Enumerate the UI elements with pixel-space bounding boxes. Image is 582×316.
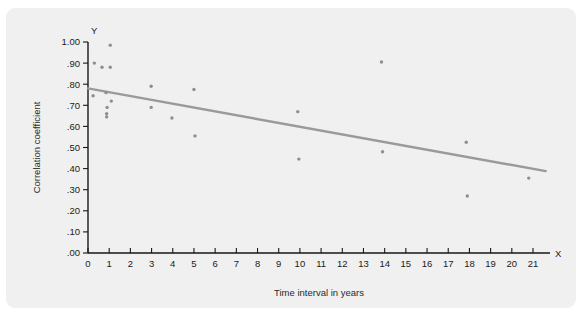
data-point bbox=[91, 94, 94, 97]
x-tick-label: 16 bbox=[422, 258, 433, 269]
data-point bbox=[527, 176, 530, 179]
x-tick-label: 17 bbox=[443, 258, 454, 269]
x-tick-label: 11 bbox=[316, 258, 326, 269]
x-tick-label: 5 bbox=[191, 258, 196, 269]
data-point bbox=[104, 91, 107, 94]
y-tick-label: 1.00 bbox=[62, 36, 81, 47]
data-point bbox=[170, 116, 173, 119]
data-point bbox=[105, 106, 108, 109]
data-point bbox=[192, 88, 195, 91]
y-tick-label: .20 bbox=[67, 205, 80, 216]
data-point bbox=[297, 157, 300, 160]
data-point bbox=[149, 106, 152, 109]
x-tick-label: 6 bbox=[212, 258, 217, 269]
trend-line bbox=[88, 88, 546, 171]
x-tick-label: 14 bbox=[379, 258, 390, 269]
x-axis-ticks: 0123456789101112131415161718192021 bbox=[85, 248, 538, 269]
x-tick-label: 3 bbox=[149, 258, 154, 269]
x-tick-label: 20 bbox=[507, 258, 518, 269]
x-tick-label: 18 bbox=[464, 258, 475, 269]
x-axis-symbol: X bbox=[555, 248, 562, 259]
y-tick-label: .40 bbox=[67, 163, 80, 174]
y-tick-label: .70 bbox=[67, 100, 80, 111]
data-point bbox=[105, 115, 108, 118]
x-tick-label: 4 bbox=[170, 258, 175, 269]
y-tick-label: .50 bbox=[67, 142, 80, 153]
axes bbox=[88, 42, 550, 253]
data-point bbox=[466, 194, 469, 197]
data-point bbox=[109, 66, 112, 69]
y-axis-symbol: Y bbox=[91, 25, 98, 36]
x-tick-label: 1 bbox=[107, 258, 112, 269]
x-axis-title: Time interval in years bbox=[274, 287, 364, 298]
data-point bbox=[105, 112, 108, 115]
x-tick-label: 13 bbox=[358, 258, 369, 269]
scatter-plot-figure: .00.10.20.30.40.50.60.70.80.901.00 01234… bbox=[0, 0, 582, 316]
x-tick-label: 12 bbox=[337, 258, 348, 269]
x-tick-label: 9 bbox=[276, 258, 281, 269]
data-points bbox=[91, 43, 530, 197]
data-point bbox=[110, 99, 113, 102]
x-tick-label: 10 bbox=[295, 258, 306, 269]
y-tick-label: .90 bbox=[67, 58, 80, 69]
data-point bbox=[380, 60, 383, 63]
chart-canvas: .00.10.20.30.40.50.60.70.80.901.00 01234… bbox=[0, 0, 582, 316]
data-point bbox=[465, 141, 468, 144]
data-point bbox=[93, 61, 96, 64]
y-tick-label: .00 bbox=[67, 247, 80, 258]
x-tick-label: 8 bbox=[255, 258, 260, 269]
x-tick-label: 21 bbox=[528, 258, 539, 269]
y-tick-label: .10 bbox=[67, 226, 80, 237]
x-tick-label: 19 bbox=[485, 258, 496, 269]
x-tick-label: 7 bbox=[234, 258, 239, 269]
regression-trend-line bbox=[88, 88, 546, 171]
data-point bbox=[381, 150, 384, 153]
y-axis-ticks: .00.10.20.30.40.50.60.70.80.901.00 bbox=[62, 36, 89, 258]
x-tick-label: 0 bbox=[85, 258, 90, 269]
data-point bbox=[109, 43, 112, 46]
x-tick-label: 15 bbox=[401, 258, 412, 269]
y-axis-title: Correlation coefficient bbox=[31, 101, 42, 193]
data-point bbox=[296, 110, 299, 113]
data-point bbox=[193, 134, 196, 137]
y-tick-label: .60 bbox=[67, 121, 80, 132]
y-tick-label: .80 bbox=[67, 79, 80, 90]
x-tick-label: 2 bbox=[128, 258, 133, 269]
data-point bbox=[100, 66, 103, 69]
data-point bbox=[149, 85, 152, 88]
y-tick-label: .30 bbox=[67, 184, 80, 195]
